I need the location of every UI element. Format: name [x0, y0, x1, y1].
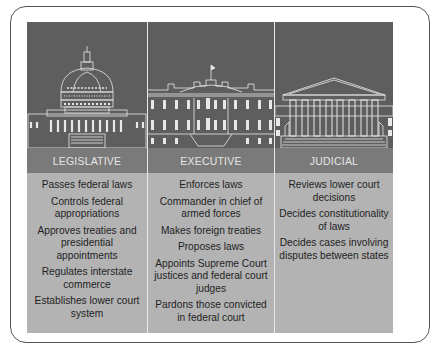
white-house-icon [148, 22, 274, 148]
list-item: Makes foreign treaties [148, 225, 274, 238]
list-item: Appoints Supreme Court justices and fede… [148, 258, 274, 296]
list-item: Passes federal laws [27, 179, 147, 192]
list-item: Decides constitutionality of laws [275, 208, 393, 233]
branch-header-judicial: JUDICIAL [275, 148, 393, 173]
judicial-column: JUDICIAL Reviews lower court decisions D… [274, 22, 393, 333]
capitol-building-icon [27, 22, 147, 148]
list-item: Reviews lower court decisions [275, 179, 393, 204]
list-item: Enforces laws [148, 179, 274, 192]
list-item: Pardons those convicted in federal court [148, 299, 274, 324]
legislative-powers-list: Passes federal laws Controls federal app… [27, 173, 147, 333]
list-item: Regulates interstate commerce [27, 266, 147, 291]
list-item: Establishes lower court system [27, 295, 147, 320]
supreme-court-icon [275, 22, 393, 148]
list-item: Controls federal appropriations [27, 196, 147, 221]
judicial-powers-list: Reviews lower court decisions Decides co… [275, 173, 393, 333]
branch-header-executive: EXECUTIVE [148, 148, 274, 173]
branch-header-legislative: LEGISLATIVE [27, 148, 147, 173]
executive-powers-list: Enforces laws Commander in chief of arme… [148, 173, 274, 333]
executive-column: EXECUTIVE Enforces laws Commander in chi… [147, 22, 274, 333]
list-item: Proposes laws [148, 241, 274, 254]
list-item: Commander in chief of armed forces [148, 196, 274, 221]
branches-of-government-diagram: LEGISLATIVE Passes federal laws Controls… [27, 22, 392, 333]
legislative-column: LEGISLATIVE Passes federal laws Controls… [27, 22, 147, 333]
list-item: Decides cases involving disputes between… [275, 237, 393, 262]
list-item: Approves treaties and presidential appoi… [27, 225, 147, 263]
